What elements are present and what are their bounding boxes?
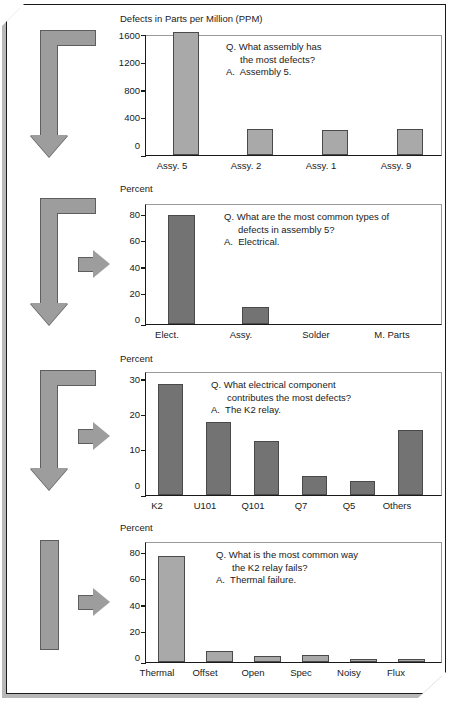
chart-4-ytick-20: 20 [106,626,140,637]
arrowhead-down-icon [30,468,68,490]
chart-3-ytick-10: 10 [106,444,140,455]
chart-4-tickmark-80 [141,553,146,554]
bar-assy [242,307,269,324]
chart-2-plot-area: Q. What are the most common types of def… [145,204,442,325]
chart-2-q2: defects in assembly 5? [224,224,335,235]
chart-1-xlabel-2: Assy. 1 [301,160,341,171]
chart-3-tickmark-10 [141,450,146,451]
chart-1-tickmark-1200 [141,63,146,64]
chart-2-xlabel-3: M. Parts [370,329,414,340]
bar-q5 [350,481,375,495]
chart-1-tickmark-400 [141,118,146,119]
chart-2: Percent Q. What are the most common type… [112,180,448,348]
chart-2-tickmark-0 [141,325,146,326]
chart-4-q2: the K2 relay fails? [216,562,308,573]
chart-2-ytick-80: 80 [106,209,140,220]
chart-1-xlabel-1: Assy. 2 [226,160,266,171]
chart-1-tickmark-800 [141,90,146,91]
chart-4-tickmark-0 [141,663,146,664]
chart-3-q2: contributes the most defects? [211,392,351,403]
chart-3-a: A. The K2 relay. [211,404,281,415]
bar-assy-5 [173,32,199,155]
bar-k2 [158,384,183,496]
chart-1-a: A. Assembly 5. [226,66,291,77]
chart-2-q1: Q. What are the most common types of [224,211,389,222]
chart-3-q1: Q. What electrical component [211,379,336,390]
chart-4-ytick-40: 40 [106,600,140,611]
chart-4-ytick-80: 80 [106,547,140,558]
chart-4-title: Percent [120,522,153,533]
chart-1-title: Defects in Parts per Million (PPM) [120,13,263,24]
chart-2-ytick-0: 0 [106,314,140,325]
chart-2-annotation: Q. What are the most common types of def… [224,211,389,249]
hook-arrow-1 [28,30,96,162]
chart-1-plot-area: Q. What assembly has the most defects? A… [145,35,442,156]
chart-1-ytick-1200: 1200 [106,57,140,68]
chart-2-tickmark-80 [141,215,146,216]
chart-3-xlabel-4: Q5 [329,500,369,511]
chart-2-a: A. Electrical. [224,236,279,247]
chart-2-xlabel-0: Elect. [147,329,187,340]
chart-1-ytick-800: 800 [106,85,140,96]
chart-2-tickmark-60 [141,241,146,242]
chart-2-tickmark-20 [141,294,146,295]
chart-4-annotation: Q. What is the most common way the K2 re… [216,549,358,587]
chart-4-xlabel-4: Noisy [329,667,369,678]
chart-3-title: Percent [120,353,153,364]
chart-1-q1: Q. What assembly has [226,41,322,52]
chart-2-ytick-40: 40 [106,262,140,273]
chart-2-xlabel-1: Assy. [221,329,261,340]
chart-3-xlabel-1: U101 [185,500,225,511]
arrowhead-down-icon [30,135,68,157]
chart-4-plot-area: Q. What is the most common way the K2 re… [145,542,442,663]
bar-assy-9 [397,129,423,155]
chart-1: Defects in Parts per Million (PPM) Q. Wh… [112,8,448,176]
chart-4-tickmark-40 [141,605,146,606]
chart-4: Percent Q. What is the most common way t… [112,520,448,692]
chart-4-xlabel-1: Offset [185,667,225,678]
chart-1-ytick-0: 0 [106,140,140,151]
chart-3-xlabel-2: Q101 [233,500,273,511]
bar-offset [206,651,233,662]
chart-2-title: Percent [120,183,153,194]
bar-spec [302,655,329,662]
chart-4-tickmark-20 [141,632,146,633]
chart-3-ytick-20: 20 [106,409,140,420]
chart-1-tickmark-1600 [141,35,146,36]
chart-4-xlabel-0: Thermal [137,667,177,678]
bar-flux [398,659,425,662]
chart-1-ytick-400: 400 [106,112,140,123]
chart-4-xlabel-5: Flux [376,667,416,678]
chart-3-tickmark-20 [141,415,146,416]
chart-1-annotation: Q. What assembly has the most defects? A… [226,41,322,79]
connector-column [0,0,112,702]
chart-3-xlabel-3: Q7 [281,500,321,511]
chart-4-tickmark-60 [141,579,146,580]
bar-open [254,656,281,662]
chart-3-annotation: Q. What electrical component contributes… [211,379,351,417]
chart-3-xlabel-0: K2 [137,500,177,511]
chart-4-q1: Q. What is the most common way [216,549,358,560]
chart-1-ytick-1600: 1600 [106,30,140,41]
chart-1-q2: the most defects? [226,54,315,65]
chart-3-ytick-0: 0 [106,480,140,491]
chart-3: Percent Q. What electrical component con… [112,348,448,520]
chart-2-ytick-20: 20 [106,288,140,299]
chart-1-xlabel-3: Assy. 9 [376,160,416,171]
bar-noisy [350,659,377,662]
chart-4-ytick-0: 0 [106,652,140,663]
bar-assy-2 [247,129,273,155]
chart-3-plot-area: Q. What electrical component contributes… [145,372,442,496]
chart-2-xlabel-2: Solder [296,329,336,340]
chart-1-xlabel-0: Assy. 5 [152,160,192,171]
chart-2-tickmark-40 [141,267,146,268]
bar-q101 [254,441,279,495]
chart-3-ytick-30: 30 [106,374,140,385]
vertical-bar-4 [40,540,59,650]
bar-assy-1 [322,130,348,155]
bar-elect [168,215,195,324]
chart-4-a: A. Thermal failure. [216,574,296,585]
chart-4-ytick-60: 60 [106,573,140,584]
bar-thermal [158,556,185,662]
chart-4-xlabel-2: Open [233,667,273,678]
